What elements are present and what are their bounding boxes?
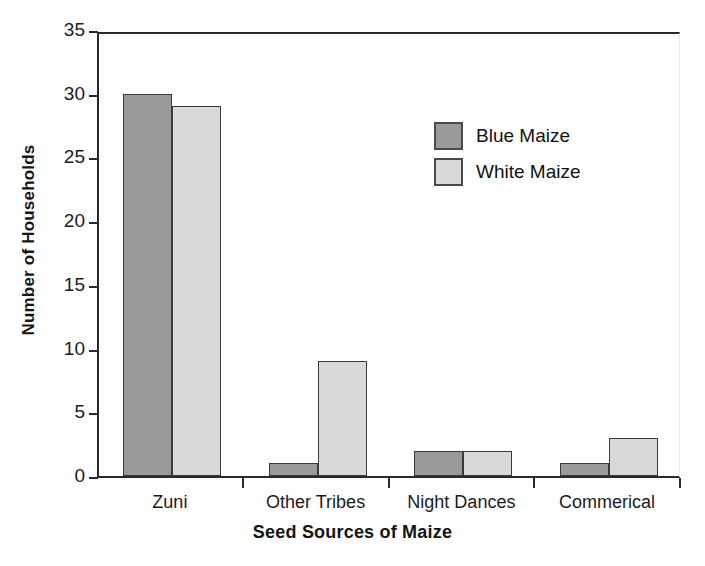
y-tick-label: 15 [41,274,85,296]
plot-area [97,32,680,478]
y-tick-label: 0 [41,465,85,487]
y-tick-label: 10 [41,338,85,360]
y-tick-label: 35 [41,19,85,41]
y-tick-label: 20 [41,210,85,232]
y-tick-label: 25 [41,146,85,168]
legend-label-blue-maize: Blue Maize [476,125,570,147]
legend-item-white-maize: White Maize [434,158,581,186]
chart-figure: Number of Households 05101520253035 Zuni… [0,0,705,566]
legend-swatch-blue-maize [434,122,463,150]
x-axis-title: Seed Sources of Maize [0,522,705,543]
y-tick-label: 5 [41,401,85,423]
bar-zuni-blue-maize [123,94,172,476]
bar-night-dances-blue-maize [414,451,463,476]
y-axis-title-text: Number of Households [18,144,38,335]
bar-other-tribes-white-maize [318,361,367,476]
bar-other-tribes-blue-maize [269,463,318,476]
x-tick-mark [388,478,390,488]
legend-swatch-white-maize [434,158,463,186]
bar-zuni-white-maize [172,106,221,476]
x-tick-mark [242,478,244,488]
x-tick-mark [679,478,681,488]
legend: Blue MaizeWhite Maize [434,122,581,194]
legend-item-blue-maize: Blue Maize [434,122,581,150]
y-tick-label: 30 [41,83,85,105]
x-tick-mark [533,478,535,488]
bar-night-dances-white-maize [463,451,512,476]
legend-label-white-maize: White Maize [476,161,581,183]
bar-commerical-white-maize [609,438,658,476]
bar-commerical-blue-maize [560,463,609,476]
category-label-commerical: Commerical [517,492,697,513]
